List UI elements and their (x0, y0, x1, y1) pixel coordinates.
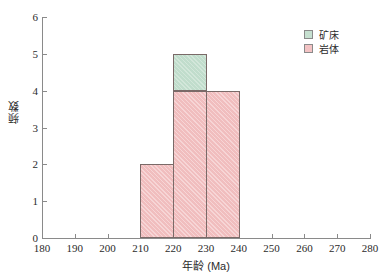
bar-segment-rock-210 (140, 164, 174, 238)
x-tick-250 (272, 234, 273, 238)
legend: 矿床 岩体 (304, 27, 339, 55)
y-tick-4: 4 (43, 91, 47, 92)
legend-swatch-deposit (304, 30, 313, 39)
x-tick-label-220: 220 (165, 243, 182, 254)
x-tick-label-180: 180 (34, 243, 51, 254)
x-tick-280 (370, 234, 371, 238)
x-tick-180 (42, 234, 43, 238)
x-tick-label-190: 190 (67, 243, 84, 254)
legend-item-deposit: 矿床 (304, 27, 339, 41)
x-tick-label-210: 210 (132, 243, 149, 254)
y-tick-5: 5 (43, 54, 47, 55)
x-tick-label-280: 280 (362, 243, 379, 254)
y-tick-3: 3 (43, 128, 47, 129)
y-tick-label-1: 1 (33, 196, 39, 207)
y-tick-label-6: 6 (33, 12, 39, 23)
y-axis-title: 频数 (6, 100, 22, 124)
x-axis-title: 年龄 (Ma) (42, 257, 370, 273)
bar-segment-rock-230 (206, 91, 240, 238)
y-tick-label-5: 5 (33, 48, 39, 59)
x-tick-label-260: 260 (296, 243, 313, 254)
x-tick-label-270: 270 (329, 243, 346, 254)
x-tick-label-240: 240 (231, 243, 248, 254)
bar-segment-rock-220 (173, 91, 207, 238)
bar-segment-deposit-220 (173, 54, 207, 91)
x-tick-270 (337, 234, 338, 238)
y-tick-0: 0 (43, 238, 47, 239)
y-tick-1: 1 (43, 201, 47, 202)
x-axis-line (42, 238, 371, 239)
y-tick-label-2: 2 (33, 159, 39, 170)
y-tick-label-4: 4 (33, 85, 39, 96)
x-tick-200 (108, 234, 109, 238)
x-tick-label-230: 230 (198, 243, 215, 254)
legend-item-rock: 岩体 (304, 41, 339, 55)
x-tick-label-200: 200 (99, 243, 116, 254)
x-tick-label-250: 250 (263, 243, 280, 254)
x-tick-190 (75, 234, 76, 238)
legend-label-rock: 岩体 (319, 41, 339, 56)
y-tick-2: 2 (43, 164, 47, 165)
y-tick-6: 6 (43, 17, 47, 18)
legend-label-deposit: 矿床 (319, 27, 339, 42)
y-tick-label-3: 3 (33, 122, 39, 133)
x-tick-260 (304, 234, 305, 238)
histogram-figure: 0123456 18019020021022023024025026027028… (0, 0, 385, 277)
legend-swatch-rock (304, 44, 313, 53)
